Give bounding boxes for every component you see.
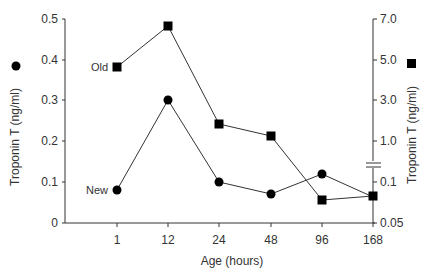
- svg-text:168: 168: [363, 233, 383, 247]
- series-new-line: [117, 100, 373, 197]
- svg-text:3.0: 3.0: [380, 93, 397, 107]
- series-old-line: [117, 26, 373, 200]
- svg-text:0.05: 0.05: [380, 216, 404, 230]
- svg-text:96: 96: [315, 233, 329, 247]
- series-old-markers: [113, 22, 378, 205]
- svg-text:0.2: 0.2: [41, 134, 58, 148]
- left-axis-ticks: 0.5 0.4 0.3 0.2 0.1 0: [41, 12, 58, 230]
- x-axis: [65, 223, 375, 227]
- series-new-markers: [113, 96, 327, 199]
- svg-text:5.0: 5.0: [380, 53, 397, 67]
- series-old-label: Old: [91, 61, 108, 73]
- left-axis-circle-icon: [12, 62, 21, 71]
- svg-text:1: 1: [114, 233, 121, 247]
- svg-text:0: 0: [51, 216, 58, 230]
- right-axis-square-icon: [407, 59, 416, 68]
- svg-text:0.3: 0.3: [41, 93, 58, 107]
- svg-text:48: 48: [264, 233, 278, 247]
- svg-text:0.1: 0.1: [41, 175, 58, 189]
- right-axis-label: Troponin T (ng/ml): [405, 86, 419, 184]
- series-new-label: New: [86, 184, 108, 196]
- svg-text:0.5: 0.5: [41, 12, 58, 26]
- svg-text:24: 24: [212, 233, 226, 247]
- svg-text:7.0: 7.0: [380, 12, 397, 26]
- left-axis: [62, 19, 65, 223]
- x-axis-ticks: 1 12 24 48 96 168: [114, 233, 384, 247]
- svg-text:12: 12: [161, 233, 175, 247]
- svg-text:1.0: 1.0: [380, 134, 397, 148]
- x-axis-label: Age (hours): [201, 254, 264, 268]
- svg-text:0.4: 0.4: [41, 53, 58, 67]
- left-axis-label: Troponin T (ng/ml): [8, 88, 22, 186]
- troponin-chart: 0.5 0.4 0.3 0.2 0.1 0 Troponin T (ng/ml)…: [0, 0, 427, 273]
- right-axis-ticks: 7.0 5.0 3.0 1.0 0.1 0.05: [380, 12, 404, 230]
- svg-text:0.1: 0.1: [380, 175, 397, 189]
